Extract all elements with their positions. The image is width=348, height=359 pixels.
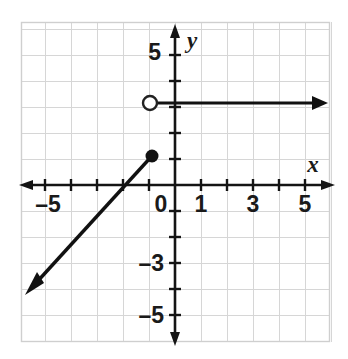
- axis-label-layer: –5 0 1 3 5 5 –3 –5 y x: [0, 0, 348, 359]
- x-tick-label-0: 0: [155, 191, 168, 217]
- x-tick-label-1: 1: [195, 191, 208, 217]
- y-tick-label-neg5: –5: [138, 302, 164, 328]
- y-tick-label-5: 5: [148, 39, 161, 65]
- x-axis-label: x: [306, 152, 319, 177]
- y-axis-label: y: [184, 28, 198, 53]
- graph-figure: –5 0 1 3 5 5 –3 –5 y x: [0, 0, 348, 359]
- x-tick-label-5: 5: [299, 191, 312, 217]
- y-tick-label-neg3: –3: [138, 250, 164, 276]
- x-tick-label-neg5: –5: [35, 191, 61, 217]
- x-tick-label-3: 3: [247, 191, 260, 217]
